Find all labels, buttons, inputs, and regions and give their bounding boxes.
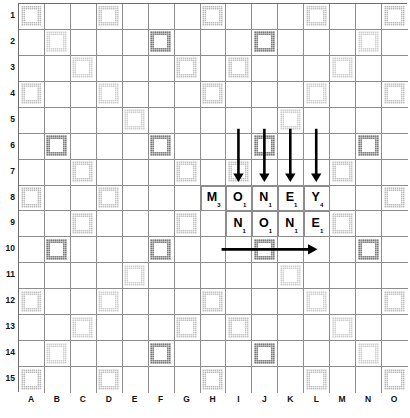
board-square-G15[interactable] bbox=[175, 367, 201, 393]
letter-tile-J8[interactable]: N1 bbox=[252, 186, 278, 212]
board-square-L14[interactable] bbox=[304, 341, 330, 367]
letter-tile-J9[interactable]: O1 bbox=[252, 211, 278, 237]
board-square-I10[interactable] bbox=[226, 237, 252, 263]
board-square-L3[interactable] bbox=[304, 56, 330, 82]
board-square-O1[interactable] bbox=[382, 4, 408, 30]
board-square-C7[interactable] bbox=[71, 160, 97, 186]
board-square-M15[interactable] bbox=[330, 367, 356, 393]
board-square-G6[interactable] bbox=[175, 134, 201, 160]
board-square-O6[interactable] bbox=[382, 134, 408, 160]
board-square-O5[interactable] bbox=[382, 108, 408, 134]
board-square-F9[interactable] bbox=[149, 211, 175, 237]
board-square-N14[interactable] bbox=[356, 341, 382, 367]
board-square-B15[interactable] bbox=[45, 367, 71, 393]
board-square-G13[interactable] bbox=[175, 315, 201, 341]
board-square-N6[interactable] bbox=[356, 134, 382, 160]
board-square-C1[interactable] bbox=[71, 4, 97, 30]
board-square-N8[interactable] bbox=[356, 186, 382, 212]
board-square-D14[interactable] bbox=[97, 341, 123, 367]
board-square-C9[interactable] bbox=[71, 211, 97, 237]
board-square-J2[interactable] bbox=[252, 30, 278, 56]
board-square-L1[interactable] bbox=[304, 4, 330, 30]
board-square-K10[interactable] bbox=[278, 237, 304, 263]
board-square-K2[interactable] bbox=[278, 30, 304, 56]
board-square-F13[interactable] bbox=[149, 315, 175, 341]
board-square-I4[interactable] bbox=[226, 82, 252, 108]
board-square-D9[interactable] bbox=[97, 211, 123, 237]
board-square-J7[interactable] bbox=[252, 160, 278, 186]
board-square-O15[interactable] bbox=[382, 367, 408, 393]
board-square-D6[interactable] bbox=[97, 134, 123, 160]
board-square-I13[interactable] bbox=[226, 315, 252, 341]
board-square-E6[interactable] bbox=[123, 134, 149, 160]
board-square-F3[interactable] bbox=[149, 56, 175, 82]
board-square-F1[interactable] bbox=[149, 4, 175, 30]
board-square-B5[interactable] bbox=[45, 108, 71, 134]
board-square-D12[interactable] bbox=[97, 289, 123, 315]
board-square-E15[interactable] bbox=[123, 367, 149, 393]
board-square-E3[interactable] bbox=[123, 56, 149, 82]
board-square-E8[interactable] bbox=[123, 186, 149, 212]
board-square-D8[interactable] bbox=[97, 186, 123, 212]
board-square-K6[interactable] bbox=[278, 134, 304, 160]
board-square-G4[interactable] bbox=[175, 82, 201, 108]
board-square-A2[interactable] bbox=[19, 30, 45, 56]
board-square-E7[interactable] bbox=[123, 160, 149, 186]
board-square-C10[interactable] bbox=[71, 237, 97, 263]
board-square-I7[interactable] bbox=[226, 160, 252, 186]
board-square-F4[interactable] bbox=[149, 82, 175, 108]
board-square-N15[interactable] bbox=[356, 367, 382, 393]
board-square-M12[interactable] bbox=[330, 289, 356, 315]
letter-tile-I9[interactable]: N1 bbox=[226, 211, 252, 237]
board-square-O13[interactable] bbox=[382, 315, 408, 341]
board-square-M1[interactable] bbox=[330, 4, 356, 30]
board-square-G5[interactable] bbox=[175, 108, 201, 134]
board-square-E4[interactable] bbox=[123, 82, 149, 108]
board-square-A13[interactable] bbox=[19, 315, 45, 341]
board-square-A5[interactable] bbox=[19, 108, 45, 134]
board-square-O11[interactable] bbox=[382, 263, 408, 289]
letter-tile-K9[interactable]: N1 bbox=[278, 211, 304, 237]
board-square-A6[interactable] bbox=[19, 134, 45, 160]
board-square-M3[interactable] bbox=[330, 56, 356, 82]
board-square-G3[interactable] bbox=[175, 56, 201, 82]
board-square-I12[interactable] bbox=[226, 289, 252, 315]
board-square-A11[interactable] bbox=[19, 263, 45, 289]
board-square-K4[interactable] bbox=[278, 82, 304, 108]
scrabble-grid[interactable]: M3O1N1E1Y4N1O1N1E1 bbox=[18, 3, 407, 392]
board-square-E12[interactable] bbox=[123, 289, 149, 315]
board-square-N11[interactable] bbox=[356, 263, 382, 289]
board-square-A4[interactable] bbox=[19, 82, 45, 108]
board-square-A3[interactable] bbox=[19, 56, 45, 82]
board-square-L6[interactable] bbox=[304, 134, 330, 160]
board-square-I15[interactable] bbox=[226, 367, 252, 393]
board-square-B9[interactable] bbox=[45, 211, 71, 237]
board-square-M10[interactable] bbox=[330, 237, 356, 263]
board-square-B2[interactable] bbox=[45, 30, 71, 56]
board-square-D10[interactable] bbox=[97, 237, 123, 263]
board-square-B3[interactable] bbox=[45, 56, 71, 82]
letter-tile-K8[interactable]: E1 bbox=[278, 186, 304, 212]
board-square-M14[interactable] bbox=[330, 341, 356, 367]
board-square-F7[interactable] bbox=[149, 160, 175, 186]
board-square-O10[interactable] bbox=[382, 237, 408, 263]
board-square-I5[interactable] bbox=[226, 108, 252, 134]
board-square-H1[interactable] bbox=[201, 4, 227, 30]
board-square-O4[interactable] bbox=[382, 82, 408, 108]
board-square-L12[interactable] bbox=[304, 289, 330, 315]
board-square-C5[interactable] bbox=[71, 108, 97, 134]
board-square-M2[interactable] bbox=[330, 30, 356, 56]
board-square-K3[interactable] bbox=[278, 56, 304, 82]
board-square-M8[interactable] bbox=[330, 186, 356, 212]
board-square-N7[interactable] bbox=[356, 160, 382, 186]
board-square-O7[interactable] bbox=[382, 160, 408, 186]
board-square-K15[interactable] bbox=[278, 367, 304, 393]
board-square-H3[interactable] bbox=[201, 56, 227, 82]
board-square-M6[interactable] bbox=[330, 134, 356, 160]
board-square-B10[interactable] bbox=[45, 237, 71, 263]
board-square-J3[interactable] bbox=[252, 56, 278, 82]
board-square-K5[interactable] bbox=[278, 108, 304, 134]
board-square-M9[interactable] bbox=[330, 211, 356, 237]
board-square-G7[interactable] bbox=[175, 160, 201, 186]
board-square-C3[interactable] bbox=[71, 56, 97, 82]
